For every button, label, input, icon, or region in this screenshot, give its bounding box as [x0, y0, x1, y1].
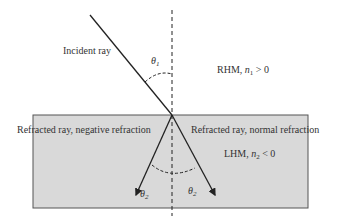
theta2-right-label: θ2 [188, 186, 196, 198]
theta1-arc [145, 73, 172, 82]
theta2-left-label: θ2 [140, 189, 148, 201]
incident-ray [90, 15, 172, 115]
normal-refraction-label: Refracted ray, normal refraction [191, 125, 319, 135]
incident-ray-label: Incident ray [63, 46, 111, 56]
negative-refraction-label: Refracted ray, negative refraction [17, 125, 151, 135]
refraction-diagram [0, 0, 339, 216]
rhm-label: RHM, n1 > 0 [217, 65, 269, 77]
theta1-label: θ1 [151, 56, 159, 68]
lhm-label: LHM, n2 < 0 [224, 149, 275, 161]
